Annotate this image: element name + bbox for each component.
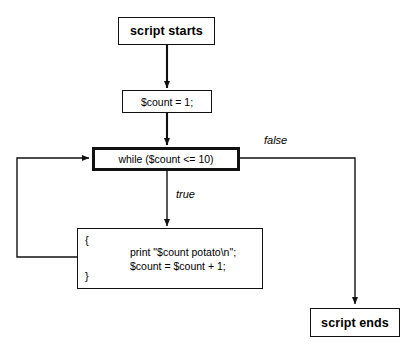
- loop-body-code: print "$count potato\n"; $count = $count…: [130, 246, 236, 273]
- node-script-ends-label: script ends: [321, 316, 389, 330]
- node-script-starts-label: script starts: [130, 24, 203, 38]
- node-script-ends: script ends: [310, 308, 400, 337]
- node-while-condition-label: while ($count <= 10): [118, 153, 213, 165]
- edge-label-true: true: [176, 188, 195, 200]
- flowchart-canvas: script starts $count = 1; while ($count …: [0, 0, 417, 345]
- edge-label-false: false: [264, 134, 287, 146]
- node-loop-body: { } print "$count potato\n"; $count = $c…: [77, 228, 263, 289]
- node-count-init-label: $count = 1;: [141, 96, 193, 108]
- node-script-starts: script starts: [118, 17, 215, 45]
- node-count-init: $count = 1;: [122, 90, 212, 113]
- close-brace-label: }: [85, 271, 89, 282]
- node-while-condition: while ($count <= 10): [92, 147, 240, 171]
- open-brace-label: {: [85, 235, 89, 246]
- flowchart-edges: [0, 0, 417, 345]
